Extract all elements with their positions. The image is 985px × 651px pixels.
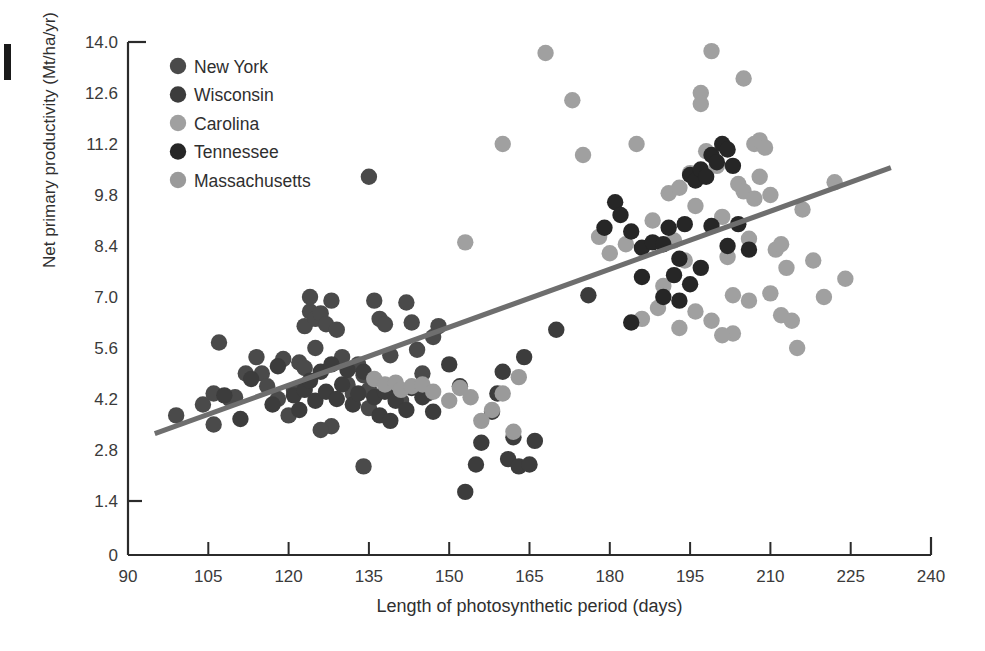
data-point bbox=[671, 292, 687, 308]
x-tick-label: 120 bbox=[274, 567, 302, 586]
data-point bbox=[709, 154, 725, 170]
legend-marker-carolina bbox=[170, 115, 186, 131]
data-point bbox=[746, 190, 762, 206]
data-point bbox=[671, 180, 687, 196]
data-point bbox=[725, 158, 741, 174]
x-tick-label: 180 bbox=[596, 567, 624, 586]
data-point bbox=[602, 245, 618, 261]
data-point bbox=[516, 349, 532, 365]
data-point bbox=[323, 292, 339, 308]
series-carolina bbox=[457, 43, 853, 356]
data-point bbox=[441, 356, 457, 372]
data-point bbox=[366, 292, 382, 308]
data-point bbox=[495, 363, 511, 379]
x-tick-label: 210 bbox=[756, 567, 784, 586]
trendline bbox=[155, 168, 891, 434]
data-point bbox=[329, 322, 345, 338]
data-point bbox=[404, 314, 420, 330]
scatter-plot-canvas: 01.42.84.25.67.08.49.811.212.614.0 90105… bbox=[0, 0, 985, 651]
data-point bbox=[666, 267, 682, 283]
data-point bbox=[698, 169, 714, 185]
data-point bbox=[361, 169, 377, 185]
data-point bbox=[168, 407, 184, 423]
x-axis-ticks bbox=[128, 542, 931, 555]
data-point bbox=[751, 169, 767, 185]
data-point bbox=[682, 276, 698, 292]
x-tick-label: 195 bbox=[676, 567, 704, 586]
data-point bbox=[623, 223, 639, 239]
data-point bbox=[725, 287, 741, 303]
data-point bbox=[329, 391, 345, 407]
data-point bbox=[741, 241, 757, 257]
data-point bbox=[623, 314, 639, 330]
legend-label-tennessee: Tennessee bbox=[194, 142, 279, 162]
data-point bbox=[612, 207, 628, 223]
data-point bbox=[816, 289, 832, 305]
data-point bbox=[596, 220, 612, 236]
trendline-layer bbox=[155, 168, 891, 434]
data-point bbox=[773, 236, 789, 252]
data-point bbox=[655, 289, 671, 305]
y-tick-label: 7.0 bbox=[94, 288, 118, 307]
data-point bbox=[762, 187, 778, 203]
y-tick-label: 2.8 bbox=[94, 441, 118, 460]
data-point bbox=[660, 220, 676, 236]
data-point bbox=[473, 435, 489, 451]
x-tick-label: 225 bbox=[837, 567, 865, 586]
data-point bbox=[205, 416, 221, 432]
data-point bbox=[762, 285, 778, 301]
data-point bbox=[521, 456, 537, 472]
data-point bbox=[457, 484, 473, 500]
data-point bbox=[677, 216, 693, 232]
data-point bbox=[671, 320, 687, 336]
data-point bbox=[291, 402, 307, 418]
data-point bbox=[628, 136, 644, 152]
data-point bbox=[837, 271, 853, 287]
data-point bbox=[211, 334, 227, 350]
legend-label-carolina: Carolina bbox=[194, 114, 259, 134]
x-tick-label: 105 bbox=[194, 567, 222, 586]
data-point bbox=[789, 340, 805, 356]
data-point bbox=[575, 147, 591, 163]
data-point bbox=[580, 287, 596, 303]
data-point bbox=[548, 322, 564, 338]
data-point bbox=[495, 136, 511, 152]
x-tick-label: 90 bbox=[119, 567, 138, 586]
data-point bbox=[805, 252, 821, 268]
legend-marker-tennessee bbox=[170, 143, 186, 159]
data-point bbox=[248, 349, 264, 365]
data-point bbox=[634, 269, 650, 285]
data-point bbox=[425, 384, 441, 400]
legend-label-wisconsin: Wisconsin bbox=[194, 85, 274, 105]
data-point bbox=[270, 358, 286, 374]
data-point bbox=[741, 292, 757, 308]
legend-label-massachusetts: Massachusetts bbox=[194, 171, 311, 191]
y-tick-label: 0 bbox=[109, 546, 118, 565]
data-point bbox=[457, 234, 473, 250]
data-point bbox=[735, 70, 751, 86]
data-points-layer bbox=[168, 43, 854, 500]
data-point bbox=[377, 316, 393, 332]
x-tick-label: 150 bbox=[435, 567, 463, 586]
x-tick-label: 240 bbox=[917, 567, 945, 586]
data-point bbox=[462, 389, 478, 405]
data-point bbox=[693, 96, 709, 112]
data-point bbox=[441, 393, 457, 409]
data-point bbox=[409, 342, 425, 358]
data-point bbox=[757, 139, 773, 155]
data-point bbox=[671, 251, 687, 267]
data-point bbox=[693, 260, 709, 276]
y-tick-label: 8.4 bbox=[94, 237, 118, 256]
data-point bbox=[495, 385, 511, 401]
x-axis-title: Length of photosynthetic period (days) bbox=[128, 596, 931, 617]
data-point bbox=[537, 45, 553, 61]
data-point bbox=[719, 238, 735, 254]
y-tick-label: 12.6 bbox=[85, 84, 118, 103]
data-point bbox=[216, 387, 232, 403]
y-axis-tick-labels: 01.42.84.25.67.08.49.811.212.614.0 bbox=[85, 33, 118, 565]
data-point bbox=[355, 458, 371, 474]
data-point bbox=[232, 411, 248, 427]
data-point bbox=[484, 402, 500, 418]
legend-label-new-york: New York bbox=[194, 57, 268, 77]
y-tick-label: 14.0 bbox=[85, 33, 118, 52]
